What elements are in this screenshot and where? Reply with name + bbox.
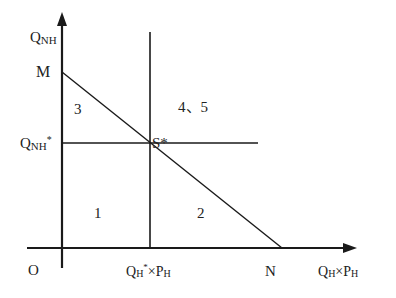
region-2-label: 2 — [197, 205, 205, 221]
region-1-label: 1 — [94, 205, 102, 221]
y-axis-arrow-icon — [57, 12, 67, 26]
x-axis-arrow-icon — [343, 243, 357, 253]
point-m-label: M — [36, 63, 50, 80]
point-n-label: N — [265, 263, 276, 279]
x-axis-label: QH×PH — [318, 264, 358, 279]
point-s-star-label: S* — [152, 135, 168, 151]
region-4-5-label: 4、5 — [178, 99, 208, 115]
region-3-label: 3 — [74, 101, 82, 117]
y-tick-qnh-star: QNH* — [20, 134, 52, 152]
budget-line-diagram: QNH M QNH* S* 3 4、5 1 2 O QH*×PH N QH×PH — [0, 0, 396, 298]
budget-line-mn — [62, 72, 282, 248]
origin-label: O — [28, 262, 39, 278]
y-axis-label: QNH — [30, 29, 57, 46]
x-tick-qh-star-times-ph: QH*×PH — [126, 262, 171, 279]
